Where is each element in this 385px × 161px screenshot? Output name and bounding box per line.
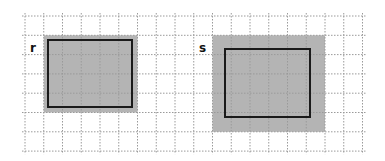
shaded-region-r [44, 35, 138, 112]
grid-diagram: r s [0, 0, 385, 161]
label-r: r [30, 41, 36, 55]
label-s: s [199, 41, 206, 55]
